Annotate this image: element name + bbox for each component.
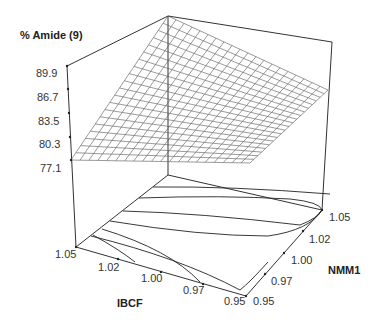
mesh-line <box>232 83 312 163</box>
y-tick-label: 0.97 <box>271 275 292 287</box>
y-axis-title: NMM1 <box>328 264 360 276</box>
floor-contours <box>91 187 330 290</box>
z-tick-label: 89.9 <box>36 67 57 79</box>
y-tick-label: 1.00 <box>291 254 312 266</box>
z-tick-label: 77.1 <box>40 162 61 174</box>
z-axis-title: % Amide (9) <box>20 29 83 41</box>
y-tick-label: 0.95 <box>253 295 274 307</box>
mesh-line <box>168 16 328 90</box>
x-tick-label: 1.00 <box>141 272 162 284</box>
response-surface-mesh <box>71 16 328 163</box>
x-tick-label: 0.97 <box>183 284 204 296</box>
y-tick-label: 1.05 <box>329 211 350 223</box>
mesh-line <box>163 23 324 94</box>
surface-plot: % Amide (9) IBCF NMM1 89.9 86.7 83.5 80.… <box>0 0 377 326</box>
x-tick-label: 1.05 <box>55 248 76 260</box>
x-axis-title: IBCF <box>117 297 143 309</box>
z-tick-label: 86.7 <box>37 91 58 103</box>
mesh-line <box>241 86 320 163</box>
y-tick-label: 1.02 <box>309 233 330 245</box>
x-tick-label: 1.02 <box>98 261 119 273</box>
z-tick-label: 80.3 <box>39 138 60 150</box>
x-tick-label: 0.95 <box>224 295 245 307</box>
z-tick-label: 83.5 <box>38 115 59 127</box>
mesh-line <box>158 30 320 97</box>
mesh-line <box>250 90 328 163</box>
